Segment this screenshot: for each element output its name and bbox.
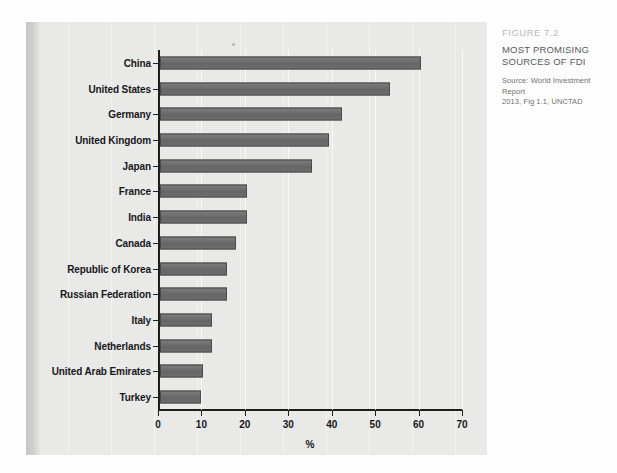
category-label: Canada xyxy=(115,237,151,248)
y-axis-tick xyxy=(153,89,158,90)
bar xyxy=(160,391,201,404)
category-label: Germany xyxy=(108,109,151,120)
x-axis-tick xyxy=(158,410,159,416)
x-axis-tick xyxy=(245,410,246,416)
bar-row: China xyxy=(158,50,462,76)
y-axis-tick xyxy=(153,63,158,64)
bar-chart-plot-area: ChinaUnited StatesGermanyUnited KingdomJ… xyxy=(158,50,462,410)
category-label: Russian Federation xyxy=(60,289,151,300)
bar-row: Canada xyxy=(158,230,462,256)
category-label: United Arab Emirates xyxy=(52,366,151,377)
y-axis-tick xyxy=(153,166,158,167)
chart-figure-panel: ChinaUnited StatesGermanyUnited KingdomJ… xyxy=(26,22,487,455)
gridline xyxy=(462,50,463,410)
category-label: United States xyxy=(88,83,151,94)
figure-source-note: Source: World Investment Report 2013, Fi… xyxy=(502,76,614,108)
bar-row: United Arab Emirates xyxy=(158,359,462,385)
y-axis-tick xyxy=(153,320,158,321)
y-axis-tick xyxy=(153,269,158,270)
figure-source-line-2: 2013, Fig 1.1, UNCTAD xyxy=(502,97,614,108)
bar xyxy=(160,133,329,146)
x-axis-tick-label: 30 xyxy=(283,419,294,430)
figure-source-line-1: Source: World Investment Report xyxy=(502,76,614,97)
category-label: Japan xyxy=(123,160,151,171)
bar-row: Netherlands xyxy=(158,333,462,359)
bar-row: Russian Federation xyxy=(158,281,462,307)
bar xyxy=(160,211,247,224)
figure-title: MOST PROMISING SOURCES OF FDI xyxy=(502,44,614,68)
category-label: Turkey xyxy=(120,392,151,403)
category-label: China xyxy=(124,57,151,68)
x-axis-tick xyxy=(201,410,202,416)
page-canvas: ChinaUnited StatesGermanyUnited KingdomJ… xyxy=(0,0,617,473)
bar-row: Republic of Korea xyxy=(158,256,462,282)
y-axis-tick xyxy=(153,346,158,347)
category-label: Netherlands xyxy=(94,340,151,351)
x-axis-tick-label: 50 xyxy=(370,419,381,430)
y-axis-tick xyxy=(153,217,158,218)
x-axis-tick xyxy=(332,410,333,416)
scan-artifact-speck xyxy=(232,43,235,46)
figure-number-label: FIGURE 7.2 xyxy=(502,27,614,38)
bar-row: Germany xyxy=(158,101,462,127)
bar xyxy=(160,82,390,95)
figure-title-line-1: MOST PROMISING xyxy=(502,44,614,56)
bar xyxy=(160,339,212,352)
y-axis-tick xyxy=(153,114,158,115)
bar-row: Japan xyxy=(158,153,462,179)
bar-row: France xyxy=(158,179,462,205)
x-axis-tick xyxy=(288,410,289,416)
bar xyxy=(160,288,227,301)
x-axis-tick xyxy=(419,410,420,416)
x-axis-tick-label: 40 xyxy=(326,419,337,430)
x-axis-tick-label: 60 xyxy=(413,419,424,430)
x-axis-tick-label: 10 xyxy=(196,419,207,430)
category-label: Italy xyxy=(131,314,151,325)
bar xyxy=(160,159,312,172)
bar xyxy=(160,185,247,198)
figure-caption-block: FIGURE 7.2 MOST PROMISING SOURCES OF FDI… xyxy=(502,27,614,108)
y-axis-tick xyxy=(153,294,158,295)
x-axis-tick-label: 0 xyxy=(155,419,161,430)
category-label: United Kingdom xyxy=(75,134,151,145)
bar xyxy=(160,262,227,275)
bar xyxy=(160,56,421,69)
bar xyxy=(160,365,203,378)
bar-row: United States xyxy=(158,76,462,102)
book-gutter-shadow xyxy=(26,22,40,455)
bar-row: Turkey xyxy=(158,384,462,410)
y-axis-tick xyxy=(153,371,158,372)
y-axis-tick xyxy=(153,243,158,244)
x-axis-tick xyxy=(375,410,376,416)
bar xyxy=(160,108,342,121)
bar-row: Italy xyxy=(158,307,462,333)
x-axis-title: % xyxy=(306,439,315,450)
bar-row: India xyxy=(158,204,462,230)
bar-row: United Kingdom xyxy=(158,127,462,153)
category-label: France xyxy=(119,186,151,197)
category-label: India xyxy=(128,212,151,223)
bar xyxy=(160,236,236,249)
bar xyxy=(160,313,212,326)
y-axis-tick xyxy=(153,397,158,398)
x-axis-tick xyxy=(462,410,463,416)
y-axis-tick xyxy=(153,191,158,192)
figure-title-line-2: SOURCES OF FDI xyxy=(502,56,614,68)
x-axis-tick-label: 70 xyxy=(456,419,467,430)
category-label: Republic of Korea xyxy=(67,263,151,274)
x-axis-tick-label: 20 xyxy=(239,419,250,430)
y-axis-tick xyxy=(153,140,158,141)
